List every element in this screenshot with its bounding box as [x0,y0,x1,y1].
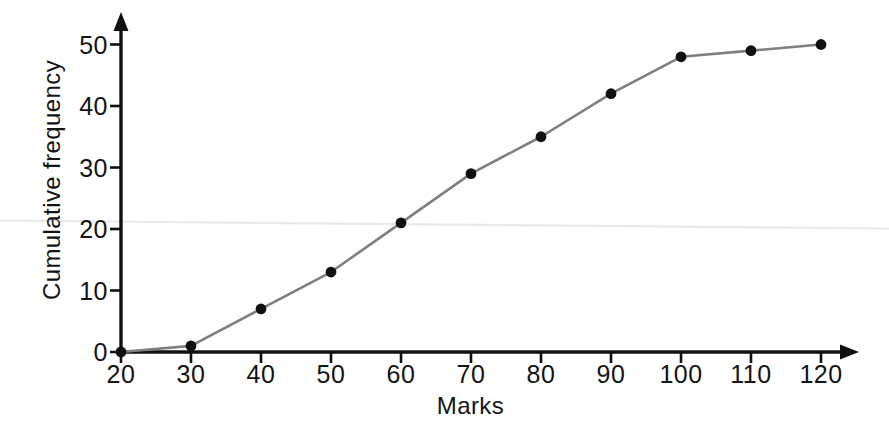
data-point-marker [816,39,827,50]
data-point-marker [606,88,617,99]
x-tick-label: 80 [527,360,556,389]
data-point-marker [326,267,337,278]
data-point-marker [746,45,757,56]
data-point-marker [536,131,547,142]
data-point-marker [396,217,407,228]
cumulative-frequency-chart: 2030405060708090100110120 01020304050 Ma… [0,0,889,428]
y-tick-label: 10 [79,276,108,305]
x-tick-label: 110 [730,360,771,389]
x-tick-label: 100 [659,360,702,389]
y-tick-label: 40 [79,92,108,121]
x-axis [121,345,859,360]
x-tick-label: 30 [177,360,206,389]
data-point-marker [676,51,687,62]
x-axis-title-text: Marks [437,392,504,420]
data-point-marker [186,340,197,351]
y-tick-label: 30 [79,153,108,182]
y-tick-label: 0 [94,338,108,367]
series-markers [116,39,827,357]
x-tick-label: 40 [247,360,276,389]
x-axis-title: Marks [0,392,889,420]
x-tick-label: 90 [597,360,626,389]
y-axis-title: Cumulative frequency [38,60,66,300]
x-tick-label: 50 [317,360,346,389]
data-point-marker [256,304,267,315]
data-point-marker [116,347,127,358]
y-axis [114,12,129,352]
data-point-marker [466,168,477,179]
x-tick-label: 120 [799,360,842,389]
x-tick-label: 70 [457,360,486,389]
scan-artifact-line [0,221,889,229]
series-line-cumulative-frequency [121,45,821,353]
y-tick-label: 50 [79,30,108,59]
x-tick-label: 60 [387,360,416,389]
y-tick-label: 20 [79,215,108,244]
x-tick-label: 20 [107,360,136,389]
